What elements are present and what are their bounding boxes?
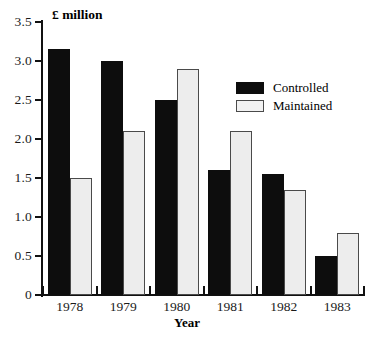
y-tick-mark bbox=[35, 60, 43, 62]
x-tick-mark bbox=[310, 286, 312, 296]
bar-maintained-1980 bbox=[177, 69, 199, 295]
y-axis-title: £ million bbox=[52, 8, 103, 22]
bar-controlled-1978 bbox=[48, 49, 70, 295]
bar-controlled-1982 bbox=[262, 174, 284, 295]
y-tick-mark bbox=[35, 99, 43, 101]
y-tick-mark bbox=[35, 255, 43, 257]
y-tick-label: 0.5 bbox=[0, 249, 32, 263]
x-tick-label: 1981 bbox=[204, 299, 258, 314]
y-tick-label: 3.0 bbox=[0, 54, 32, 68]
bar-maintained-1979 bbox=[123, 131, 145, 295]
legend-label-maintained: Maintained bbox=[273, 99, 332, 113]
legend-item-maintained: Maintained bbox=[236, 98, 332, 113]
legend-swatch-maintained-icon bbox=[236, 100, 264, 112]
chart-legend: Controlled Maintained bbox=[236, 80, 332, 116]
legend-swatch-controlled-icon bbox=[236, 82, 264, 94]
legend-item-controlled: Controlled bbox=[236, 80, 332, 95]
x-tick-mark bbox=[42, 286, 44, 296]
x-tick-label: 1983 bbox=[311, 299, 365, 314]
x-tick-mark bbox=[149, 286, 151, 296]
bar-maintained-1978 bbox=[70, 178, 92, 295]
y-tick-label: 2.5 bbox=[0, 93, 32, 107]
y-tick-label: 1.0 bbox=[0, 210, 32, 224]
x-tick-mark bbox=[256, 286, 258, 296]
bar-chart: £ million Year 00.51.01.52.02.53.03.5 19… bbox=[0, 0, 374, 340]
x-tick-label: 1979 bbox=[97, 299, 151, 314]
x-tick-label: 1982 bbox=[257, 299, 311, 314]
y-tick-mark bbox=[35, 21, 43, 23]
y-tick-mark bbox=[35, 138, 43, 140]
bar-maintained-1982 bbox=[284, 190, 306, 295]
y-tick-label: 3.5 bbox=[0, 15, 32, 29]
x-tick-mark bbox=[203, 286, 205, 296]
x-axis-title: Year bbox=[0, 316, 374, 330]
legend-label-controlled: Controlled bbox=[273, 81, 329, 95]
bar-maintained-1981 bbox=[230, 131, 252, 295]
bar-controlled-1983 bbox=[315, 256, 337, 295]
x-tick-label: 1980 bbox=[150, 299, 204, 314]
y-tick-mark bbox=[35, 177, 43, 179]
bar-controlled-1979 bbox=[101, 61, 123, 295]
bar-controlled-1981 bbox=[208, 170, 230, 295]
x-tick-mark bbox=[96, 286, 98, 296]
bar-controlled-1980 bbox=[155, 100, 177, 295]
bar-maintained-1983 bbox=[337, 233, 359, 295]
x-tick-mark bbox=[363, 286, 365, 296]
y-tick-label: 1.5 bbox=[0, 171, 32, 185]
x-tick-label: 1978 bbox=[43, 299, 97, 314]
y-tick-label: 0 bbox=[0, 288, 32, 302]
y-tick-mark bbox=[35, 216, 43, 218]
y-tick-label: 2.0 bbox=[0, 132, 32, 146]
caption-remnant bbox=[0, 334, 374, 340]
